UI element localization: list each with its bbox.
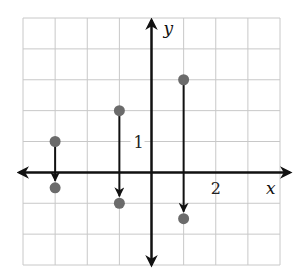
point-from (178, 74, 189, 85)
y-tick-label: 1 (134, 133, 144, 152)
y-axis-label: y (163, 18, 174, 38)
point-to (50, 182, 61, 193)
point-to (114, 198, 125, 209)
point-to (178, 213, 189, 224)
x-tick-label: 2 (211, 179, 221, 198)
coordinate-plane: xy12 (0, 0, 302, 273)
x-axis-label: x (266, 178, 276, 198)
point-from (50, 136, 61, 147)
point-from (114, 105, 125, 116)
